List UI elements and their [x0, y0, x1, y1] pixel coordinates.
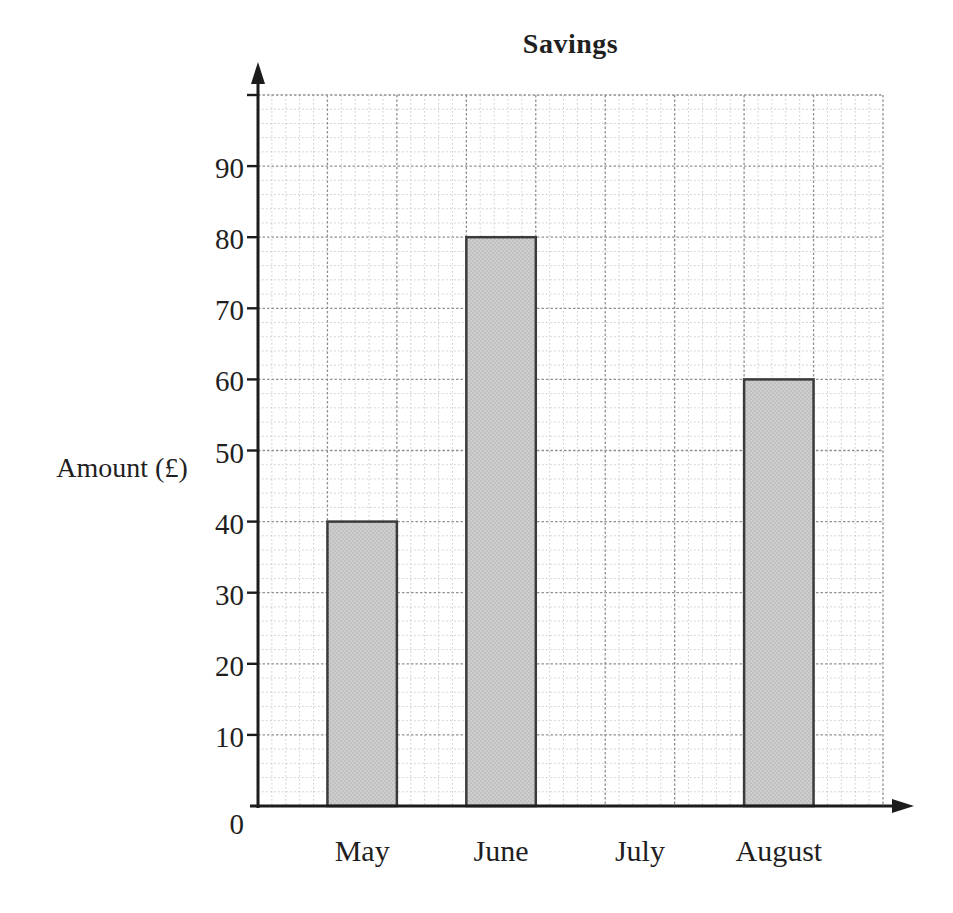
x-axis-label-july: July — [565, 834, 715, 868]
y-tick-label-90: 90 — [134, 152, 244, 184]
y-tick-label-30: 30 — [134, 579, 244, 611]
x-axis-arrow-icon — [892, 799, 914, 813]
x-axis-label-august: August — [704, 834, 854, 868]
y-tick-label-70: 70 — [134, 294, 244, 326]
x-axis-label-june: June — [426, 834, 576, 868]
y-tick-label-60: 60 — [134, 365, 244, 397]
y-axis-arrow-icon — [251, 62, 265, 84]
bar-june — [466, 237, 535, 806]
x-axis-label-may: May — [287, 834, 437, 868]
chart-canvas: Savings Amount (£) 0102030405060708090Ma… — [0, 0, 953, 913]
y-tick-label-20: 20 — [134, 650, 244, 682]
bar-august — [744, 379, 813, 806]
y-tick-label-10: 10 — [134, 721, 244, 753]
bar-may — [327, 522, 396, 806]
y-tick-label-0: 0 — [134, 808, 244, 840]
y-tick-label-80: 80 — [134, 223, 244, 255]
y-tick-label-40: 40 — [134, 508, 244, 540]
y-tick-label-50: 50 — [134, 437, 244, 469]
